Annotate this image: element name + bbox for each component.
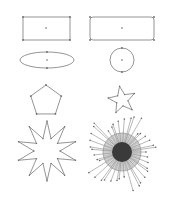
shapes-layer bbox=[18, 16, 157, 191]
handle-point bbox=[121, 27, 123, 29]
handle-point bbox=[69, 16, 71, 18]
handle-point bbox=[134, 93, 135, 94]
starburst-shape[interactable] bbox=[88, 116, 156, 191]
rectangle-shape[interactable] bbox=[22, 16, 71, 41]
handle-point bbox=[153, 39, 155, 41]
handle-point bbox=[46, 120, 47, 121]
handle-point bbox=[89, 16, 91, 18]
handle-point bbox=[60, 95, 62, 97]
burst-core bbox=[112, 142, 132, 162]
handle-point bbox=[33, 150, 34, 151]
handle-point bbox=[18, 160, 19, 161]
handle-point bbox=[50, 163, 51, 164]
handle-point bbox=[153, 16, 155, 18]
handle-point bbox=[45, 27, 47, 29]
handle-point bbox=[122, 105, 123, 106]
handle-point bbox=[75, 141, 76, 142]
handle-point bbox=[18, 141, 19, 142]
handle-point bbox=[121, 59, 123, 61]
five-point-star-shape[interactable] bbox=[107, 86, 135, 114]
handle-point bbox=[29, 126, 30, 127]
handle-point bbox=[46, 59, 48, 61]
handle-point bbox=[50, 138, 51, 139]
handle-point bbox=[22, 39, 24, 41]
handle-point bbox=[89, 39, 91, 41]
rounded-rectangle-shape[interactable] bbox=[89, 16, 155, 41]
handle-point bbox=[131, 109, 132, 110]
handle-point bbox=[115, 112, 116, 113]
ten-point-star-shape[interactable] bbox=[18, 120, 76, 181]
handle-point bbox=[45, 84, 47, 86]
handle-point bbox=[117, 95, 118, 96]
ellipse-shape[interactable] bbox=[20, 51, 74, 69]
handle-point bbox=[116, 102, 117, 103]
handle-point bbox=[46, 51, 48, 53]
handle-point bbox=[42, 163, 43, 164]
handle-point bbox=[57, 158, 58, 159]
handle-point bbox=[124, 94, 125, 95]
handle-point bbox=[121, 71, 123, 73]
handle-point bbox=[36, 158, 37, 159]
handle-point bbox=[127, 100, 128, 101]
handle-point bbox=[46, 67, 48, 69]
circle-shape[interactable] bbox=[110, 47, 134, 73]
handle-point bbox=[119, 86, 120, 87]
handle-point bbox=[22, 16, 24, 18]
handle-point bbox=[64, 126, 65, 127]
handle-point bbox=[64, 175, 65, 176]
handle-point bbox=[36, 143, 37, 144]
handle-point bbox=[107, 97, 108, 98]
handle-point bbox=[29, 175, 30, 176]
handle-point bbox=[121, 47, 123, 49]
handle-point bbox=[46, 180, 47, 181]
handle-point bbox=[36, 113, 38, 115]
handle-point bbox=[69, 39, 71, 41]
handle-point bbox=[59, 150, 60, 151]
diagram-canvas bbox=[0, 0, 176, 204]
handle-point bbox=[75, 160, 76, 161]
handle-point bbox=[42, 138, 43, 139]
handle-point bbox=[30, 95, 32, 97]
handle-point bbox=[57, 143, 58, 144]
pentagon-shape[interactable] bbox=[30, 84, 62, 115]
handle-point bbox=[55, 113, 57, 115]
